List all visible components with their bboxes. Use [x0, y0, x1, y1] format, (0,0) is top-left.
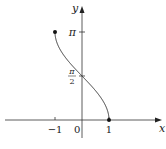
x-axis-label: x	[159, 122, 166, 135]
x-tick-label: −1	[48, 124, 63, 135]
y-axis-label: y	[71, 2, 79, 15]
y-tick-label: π	[68, 26, 77, 39]
endpoint	[53, 30, 57, 34]
y-tick-label-denominator: 2	[69, 77, 74, 86]
y-axis-arrow	[80, 6, 85, 13]
x-tick-label: 1	[106, 124, 112, 135]
origin-label: 0	[74, 124, 80, 135]
endpoint	[107, 118, 111, 122]
arccos-chart: −11π2π x y 0	[0, 0, 166, 149]
